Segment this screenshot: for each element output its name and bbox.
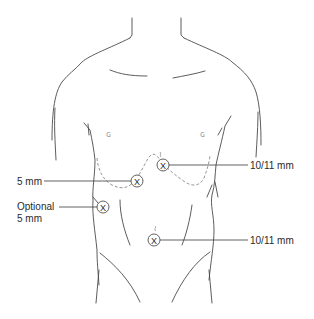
port-marker-upper-right: X: [157, 159, 169, 171]
right-clavicle: [173, 71, 205, 78]
left-leg-outline: [96, 270, 99, 303]
left-flank-mark: [93, 197, 98, 203]
port-marker-left-subcostal: X: [131, 175, 143, 187]
costal-margin-dashed: [97, 154, 210, 188]
port-marker-optional: X: [97, 201, 109, 213]
label-umbilical-port: 10/11 mm: [250, 235, 294, 246]
right-abdominal-line: [182, 205, 192, 245]
neck-right-outline: [181, 18, 184, 38]
svg-text:X: X: [160, 161, 166, 171]
svg-text:X: X: [134, 177, 140, 187]
neck-left-outline: [130, 18, 132, 38]
right-nipple-icon: ɢ: [200, 130, 205, 139]
right-torso-side: [209, 116, 231, 280]
right-arm-inner: [256, 112, 258, 157]
port-marker-umbilical: X: [148, 234, 160, 246]
port-squiggle-upper: [160, 152, 161, 157]
label-optional-port-line1: Optional: [17, 201, 54, 212]
right-groin-line: [172, 252, 210, 302]
right-flank-mark: [215, 182, 218, 197]
left-torso-side: [84, 123, 99, 285]
left-shoulder-outline: [52, 38, 130, 140]
umbilicus-icon: [155, 226, 156, 231]
left-nipple-icon: ɢ: [106, 130, 111, 139]
label-left-subcostal-port: 5 mm: [17, 176, 42, 187]
left-arm-inner: [55, 108, 56, 160]
label-optional-port-line2: 5 mm: [17, 213, 42, 224]
left-groin-line: [100, 253, 140, 302]
svg-text:X: X: [151, 236, 157, 246]
label-upper-right-port: 10/11 mm: [250, 160, 294, 171]
left-clavicle: [110, 70, 147, 76]
right-flank-mark-2: [207, 185, 212, 197]
right-leg-outline: [209, 270, 212, 303]
left-abdominal-line: [120, 200, 130, 245]
right-armpit-line: [218, 128, 222, 135]
svg-text:X: X: [100, 203, 106, 213]
right-shoulder-outline: [184, 38, 261, 145]
left-armpit-line: [88, 124, 89, 135]
